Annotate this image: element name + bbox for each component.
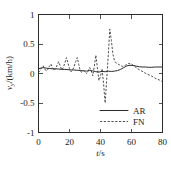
x-axis-title: t/s: [96, 148, 105, 158]
y-axis-tick-labels: -1-0.500.51: [20, 10, 35, 138]
y-axis-title-unit: /(km/h): [4, 56, 14, 83]
x-axis-title-unit: /s: [99, 148, 106, 158]
legend-label-fn: FN: [133, 117, 145, 127]
line-chart: 020406080 -1-0.500.51 AR FN t/s vy/(km/h…: [0, 0, 171, 169]
legend-label-ar: AR: [133, 106, 146, 116]
chart-figure: 020406080 -1-0.500.51 AR FN t/s vy/(km/h…: [0, 0, 171, 169]
y-tick-label: 1: [30, 10, 35, 20]
x-axis-tick-labels: 020406080: [36, 137, 167, 147]
series-line-fn: [39, 29, 163, 103]
y-tick-label: 0.5: [23, 39, 35, 49]
y-tick-label: -0.5: [20, 98, 35, 108]
x-tick-label: 40: [96, 137, 106, 147]
x-tick-label: 20: [65, 137, 75, 147]
chart-legend: AR FN: [100, 106, 146, 127]
x-tick-label: 0: [36, 137, 41, 147]
x-tick-label: 60: [127, 137, 137, 147]
y-tick-label: -1: [27, 128, 35, 138]
y-axis-title: vy/(km/h): [4, 56, 15, 90]
x-tick-label: 80: [158, 137, 168, 147]
y-tick-label: 0: [30, 69, 35, 79]
